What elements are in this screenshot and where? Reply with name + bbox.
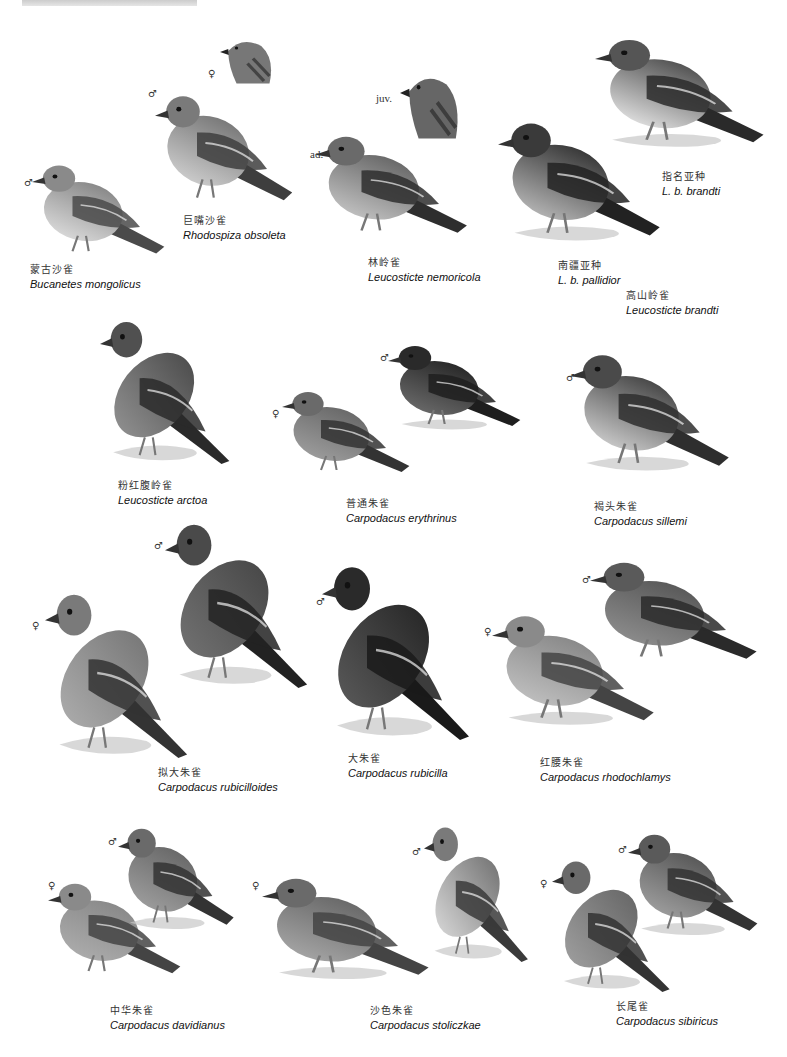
bird-illustration — [388, 332, 523, 432]
female-mark: ♀ — [32, 620, 39, 631]
species-label: 大朱雀Carpodacus rubicilla — [348, 752, 448, 780]
adult-mark: ad. — [310, 148, 323, 160]
cropped-header-text — [22, 0, 197, 6]
species-label: 中华朱雀Carpodacus davidianus — [110, 1004, 225, 1032]
bird-illustration — [570, 336, 732, 474]
bird-illustration — [595, 22, 767, 150]
male-mark: ♂ — [316, 596, 325, 607]
bird-illustration — [32, 150, 167, 260]
species-label: 褐头朱雀Carpodacus sillemi — [594, 500, 687, 528]
bird-illustration — [322, 560, 472, 740]
female-mark: ♀ — [252, 880, 259, 891]
bird-illustration — [118, 812, 236, 932]
species-label: 高山岭雀Leucosticte brandti — [626, 289, 718, 317]
bird-illustration — [262, 862, 432, 982]
species-label: 巨嘴沙雀Rhodospiza obsoleta — [183, 214, 286, 242]
bird-illustration — [628, 818, 760, 938]
female-mark: ♀ — [208, 68, 215, 79]
male-mark: ♂ — [566, 372, 575, 383]
bird-head-vignette — [220, 36, 275, 86]
species-label: 沙色朱雀Carpodacus stoliczkae — [370, 1004, 481, 1032]
species-label: 红腰朱雀Carpodacus rhodochlamys — [540, 756, 671, 784]
species-label: 普通朱雀Carpodacus erythrinus — [346, 497, 457, 525]
species-label: 拟大朱雀Carpodacus rubicilloides — [158, 766, 278, 794]
male-mark: ♂ — [582, 574, 591, 585]
female-mark: ♀ — [484, 626, 491, 637]
juvenile-mark: juv. — [376, 92, 392, 104]
species-label: 林岭雀Leucosticte nemoricola — [368, 256, 481, 284]
male-mark: ♂ — [380, 352, 389, 363]
bird-illustration — [424, 822, 530, 962]
male-mark: ♂ — [154, 540, 163, 551]
male-mark: ♂ — [618, 844, 627, 855]
subspecies-label: 南疆亚种L. b. pallidior — [558, 259, 620, 287]
bird-illustration — [165, 518, 310, 688]
bird-illustration — [100, 316, 232, 464]
female-mark: ♀ — [48, 880, 55, 891]
male-mark: ♂ — [108, 836, 117, 847]
species-label: 粉红腹岭雀Leucosticte arctoa — [118, 479, 207, 507]
male-mark: ♂ — [24, 177, 33, 188]
female-mark: ♀ — [272, 408, 279, 419]
bird-head-vignette — [400, 70, 462, 142]
male-mark: ♂ — [412, 846, 421, 857]
species-label: 长尾雀Carpodacus sibiricus — [616, 1000, 718, 1028]
subspecies-label: 指名亚种L. b. brandti — [662, 170, 720, 198]
female-mark: ♀ — [540, 878, 547, 889]
bird-illustration — [155, 78, 295, 208]
male-mark: ♂ — [148, 88, 157, 99]
bird-illustration — [590, 546, 760, 666]
species-label: 蒙古沙雀Bucanetes mongolicus — [30, 263, 141, 291]
